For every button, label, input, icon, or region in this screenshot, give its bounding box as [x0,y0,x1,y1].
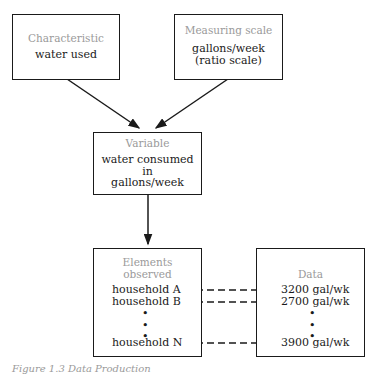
data-item-n: 3900 gal/wk [281,337,349,349]
variable-line-1: water consumed [94,154,201,166]
elements-label-1: Elements [94,256,201,268]
characteristic-value: water used [13,49,119,61]
figure-caption: Figure 1.3 Data Production [12,363,151,374]
measuring-scale-value: gallons/week [175,43,282,55]
measuring-scale-note: (ratio scale) [175,55,282,67]
variable-line-3: gallons/week [94,177,201,189]
variable-box: Variable water consumed in gallons/week [93,132,202,195]
characteristic-box: Characteristic water used [12,14,120,80]
data-label: Data [257,268,364,280]
variable-label: Variable [94,137,201,149]
characteristic-label: Characteristic [13,32,119,44]
measuring-scale-label: Measuring scale [175,24,282,36]
element-item-n: household N [112,337,182,349]
elements-label-2: observed [94,268,201,280]
measuring-scale-box: Measuring scale gallons/week (ratio scal… [174,14,283,80]
